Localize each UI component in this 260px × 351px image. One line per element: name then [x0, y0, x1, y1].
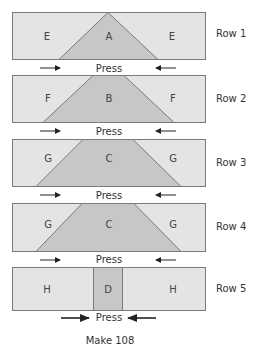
- row-3-label: Row 3: [216, 157, 246, 168]
- row-4-label: Row 4: [216, 221, 246, 232]
- row-2-center-piece: B: [106, 93, 113, 104]
- row-4-center-piece: C: [106, 219, 113, 230]
- row-3: G C G Row 3 Press: [13, 140, 247, 202]
- row-1-right-piece: E: [169, 31, 175, 42]
- row-2: F B F Row 2 Press: [13, 76, 247, 138]
- row-3-center-piece: C: [106, 153, 113, 164]
- row-2-label: Row 2: [216, 93, 246, 104]
- row-4: G C G Row 4 Press: [13, 204, 247, 266]
- row-4-right-piece: G: [169, 219, 177, 230]
- row-1-press-label: Press: [96, 63, 122, 74]
- row-5-press-label: Press: [96, 312, 122, 323]
- row-3-press-label: Press: [96, 190, 122, 201]
- row-2-press-label: Press: [96, 126, 122, 137]
- row-2-left-piece: F: [45, 93, 51, 104]
- row-5: H D H Row 5 Press: [13, 268, 247, 324]
- row-4-left-piece: G: [44, 219, 52, 230]
- row-5-center-piece: D: [104, 284, 112, 295]
- row-4-press-label: Press: [96, 254, 122, 265]
- quilt-row-diagram: E A E Row 1 Press F B F Row 2 Press G C …: [0, 0, 260, 351]
- row-1-center-piece: A: [106, 31, 113, 42]
- footer-caption: Make 108: [86, 335, 135, 346]
- row-3-left-piece: G: [44, 153, 52, 164]
- row-1-label: Row 1: [216, 28, 246, 39]
- row-3-right-piece: G: [169, 153, 177, 164]
- row-1-left-piece: E: [44, 31, 50, 42]
- row-2-right-piece: F: [170, 93, 176, 104]
- row-5-label: Row 5: [216, 283, 246, 294]
- row-5-right-piece: H: [169, 284, 177, 295]
- row-5-left-piece: H: [43, 284, 51, 295]
- row-1: E A E Row 1 Press: [13, 13, 247, 75]
